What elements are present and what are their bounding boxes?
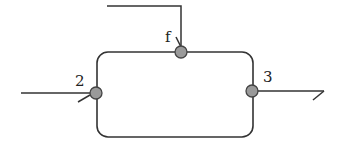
node-2 [90,87,102,99]
label-3: 3 [263,68,273,86]
node-f [175,46,187,58]
process-diagram: f 2 3 [0,0,343,144]
label-2: 2 [75,72,85,90]
stream-2 [21,93,91,102]
process-unit-box [97,52,253,137]
stream-3 [256,91,324,100]
node-3 [246,85,258,97]
label-f: f [165,28,172,46]
